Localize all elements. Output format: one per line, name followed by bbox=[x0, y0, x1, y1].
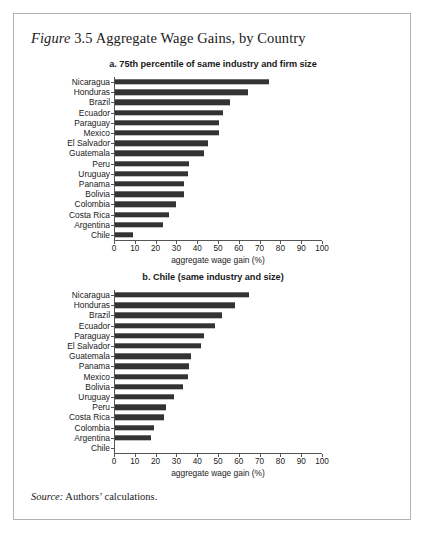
category-label: Peru bbox=[92, 159, 110, 168]
bar bbox=[114, 181, 184, 186]
x-axis-ticks: 0102030405060708090100 bbox=[14, 241, 412, 255]
figure-title: Figure 3.5 Aggregate Wage Gains, by Coun… bbox=[31, 30, 391, 47]
x-axis-ticks: 0102030405060708090100 bbox=[14, 454, 412, 468]
bar-row: Argentina bbox=[14, 220, 412, 230]
bar-row: Colombia bbox=[14, 199, 412, 209]
category-label: Costa Rica bbox=[69, 210, 110, 219]
bar bbox=[114, 212, 169, 217]
category-label: Nicaragua bbox=[72, 291, 110, 300]
source-label: Source: bbox=[31, 491, 63, 502]
x-axis-tick-label: 10 bbox=[130, 457, 139, 466]
bar-row: Chile bbox=[14, 443, 412, 453]
x-axis-tick-label: 50 bbox=[213, 457, 222, 466]
panel-b-rows: NicaraguaHondurasBrazilEcuadorParaguayEl… bbox=[14, 290, 412, 453]
bar-row: Panama bbox=[14, 179, 412, 189]
x-axis-tick-label: 90 bbox=[297, 457, 306, 466]
bar-row: Brazil bbox=[14, 310, 412, 320]
bar-row: Panama bbox=[14, 361, 412, 371]
x-axis-title: aggregate wage gain (%) bbox=[114, 255, 322, 265]
bar bbox=[114, 100, 230, 105]
bar bbox=[114, 90, 248, 95]
bar-row: Peru bbox=[14, 159, 412, 169]
source-text: Authors’ calculations. bbox=[63, 491, 157, 502]
bar bbox=[114, 343, 201, 348]
bar-row: Ecuador bbox=[14, 321, 412, 331]
category-label: Panama bbox=[79, 362, 110, 371]
x-axis-tick-label: 40 bbox=[193, 457, 202, 466]
bar bbox=[114, 171, 188, 176]
figure-frame: Figure 3.5 Aggregate Wage Gains, by Coun… bbox=[13, 13, 411, 520]
bar bbox=[114, 394, 174, 399]
category-label: Guatemala bbox=[69, 149, 110, 158]
bar-row: Mexico bbox=[14, 128, 412, 138]
bar bbox=[114, 303, 235, 308]
x-axis-tick-label: 10 bbox=[130, 244, 139, 253]
category-label: Brazil bbox=[89, 311, 110, 320]
category-label: Paraguay bbox=[74, 118, 110, 127]
bar-row: Costa Rica bbox=[14, 412, 412, 422]
figure-title-text: Aggregate Wage Gains, by Country bbox=[93, 30, 306, 46]
category-label: Bolivia bbox=[85, 382, 110, 391]
category-label: Mexico bbox=[83, 372, 110, 381]
panel-b-title: b. Chile (same industry and size) bbox=[14, 272, 412, 282]
x-axis-tick-label: 100 bbox=[315, 244, 329, 253]
bar bbox=[114, 333, 204, 338]
x-axis-tick-label: 0 bbox=[112, 244, 117, 253]
bar bbox=[114, 191, 184, 196]
bar-row: Colombia bbox=[14, 422, 412, 432]
bar bbox=[114, 141, 208, 146]
category-label: Argentina bbox=[74, 220, 110, 229]
x-axis-tick-label: 20 bbox=[151, 244, 160, 253]
x-axis-tick-label: 80 bbox=[276, 457, 285, 466]
bar bbox=[114, 415, 164, 420]
category-label: Chile bbox=[91, 230, 110, 239]
bar-row: Argentina bbox=[14, 433, 412, 443]
bar bbox=[114, 323, 215, 328]
bar-row: Paraguay bbox=[14, 118, 412, 128]
bar-row: Peru bbox=[14, 402, 412, 412]
x-axis-tick-label: 60 bbox=[234, 244, 243, 253]
x-axis-tick-label: 70 bbox=[255, 457, 264, 466]
bar bbox=[114, 384, 183, 389]
bar bbox=[114, 364, 189, 369]
figure-label: Figure bbox=[31, 30, 71, 46]
bar bbox=[114, 110, 223, 115]
bar-row: Guatemala bbox=[14, 351, 412, 361]
bar-row: El Salvador bbox=[14, 138, 412, 148]
x-axis-tick-label: 100 bbox=[315, 457, 329, 466]
x-axis-tick-label: 20 bbox=[151, 457, 160, 466]
bar-row: Bolivia bbox=[14, 189, 412, 199]
bar bbox=[114, 313, 222, 318]
bar bbox=[114, 202, 176, 207]
bar bbox=[114, 425, 154, 430]
bar bbox=[114, 151, 204, 156]
x-axis-tick-label: 50 bbox=[213, 244, 222, 253]
chart-panel-a: a. 75th percentile of same industry and … bbox=[14, 59, 412, 264]
bar bbox=[114, 130, 219, 135]
panel-a-rows: NicaraguaHondurasBrazilEcuadorParaguayMe… bbox=[14, 77, 412, 240]
bar bbox=[114, 292, 249, 297]
category-label: Ecuador bbox=[79, 108, 110, 117]
panel-a-title: a. 75th percentile of same industry and … bbox=[14, 59, 412, 69]
bar-row: Honduras bbox=[14, 87, 412, 97]
category-label: Argentina bbox=[74, 433, 110, 442]
x-axis-tick-label: 90 bbox=[297, 244, 306, 253]
bar-row: Bolivia bbox=[14, 382, 412, 392]
category-label: Colombia bbox=[75, 423, 110, 432]
bar-row: Uruguay bbox=[14, 169, 412, 179]
x-axis-tick-label: 40 bbox=[193, 244, 202, 253]
category-label: Costa Rica bbox=[69, 413, 110, 422]
bar-row: Chile bbox=[14, 230, 412, 240]
category-label: Chile bbox=[91, 443, 110, 452]
x-axis-tick-label: 0 bbox=[112, 457, 117, 466]
bar-row: Brazil bbox=[14, 97, 412, 107]
chart-panel-b: b. Chile (same industry and size) Nicara… bbox=[14, 272, 412, 482]
category-label: Honduras bbox=[74, 88, 110, 97]
bar bbox=[114, 404, 166, 409]
category-label: Uruguay bbox=[78, 169, 110, 178]
x-axis-tick-label: 30 bbox=[172, 457, 181, 466]
category-label: El Salvador bbox=[67, 342, 110, 351]
category-label: Peru bbox=[92, 403, 110, 412]
category-label: Mexico bbox=[83, 129, 110, 138]
bar-row: Ecuador bbox=[14, 108, 412, 118]
